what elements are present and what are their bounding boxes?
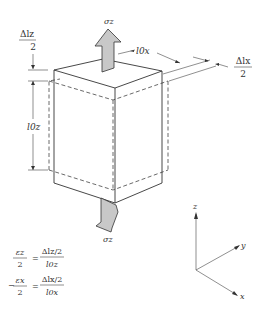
stress-top-label: σz bbox=[104, 17, 114, 26]
axis-z-label: z bbox=[192, 202, 198, 211]
equation-lateral-strain: − εx 2 = Δlx/2 l0x bbox=[8, 275, 64, 297]
svg-text:2: 2 bbox=[240, 69, 246, 79]
dimension-l0z: l0z bbox=[27, 81, 48, 170]
svg-text:2: 2 bbox=[17, 260, 22, 269]
axis-y-label: y bbox=[240, 241, 246, 250]
svg-text:=: = bbox=[32, 282, 39, 291]
svg-text:l0x: l0x bbox=[46, 288, 59, 297]
svg-text:=: = bbox=[32, 254, 39, 263]
svg-text:l0z: l0z bbox=[46, 260, 59, 269]
svg-text:−: − bbox=[8, 281, 15, 290]
strain-diagram: σz σz Δlz 2 l0z l0x bbox=[0, 0, 262, 311]
dimension-l0x: l0x bbox=[118, 46, 180, 63]
svg-text:2: 2 bbox=[17, 288, 22, 297]
axis-x-label: x bbox=[240, 292, 245, 301]
svg-text:εz: εz bbox=[16, 248, 25, 257]
svg-text:Δlz/2: Δlz/2 bbox=[42, 247, 62, 256]
svg-text:Δlx/2: Δlx/2 bbox=[42, 275, 63, 284]
svg-text:2: 2 bbox=[30, 42, 36, 52]
dimension-delta-lx: Δlx 2 bbox=[163, 56, 252, 81]
svg-text:l0x: l0x bbox=[136, 46, 150, 56]
equation-axial-strain: εz 2 = Δlz/2 l0z bbox=[13, 247, 64, 269]
stress-arrow-up-icon bbox=[95, 29, 121, 72]
svg-text:Δlz: Δlz bbox=[20, 29, 34, 39]
coordinate-axes: z y x bbox=[192, 202, 246, 301]
dimension-delta-lz: Δlz 2 bbox=[19, 29, 48, 81]
svg-text:l0z: l0z bbox=[27, 122, 41, 132]
original-box-outline bbox=[49, 79, 168, 190]
stress-bottom-label: σz bbox=[103, 235, 113, 244]
svg-text:Δlx: Δlx bbox=[236, 56, 250, 66]
svg-text:εx: εx bbox=[16, 276, 25, 285]
deformed-box bbox=[54, 59, 162, 203]
